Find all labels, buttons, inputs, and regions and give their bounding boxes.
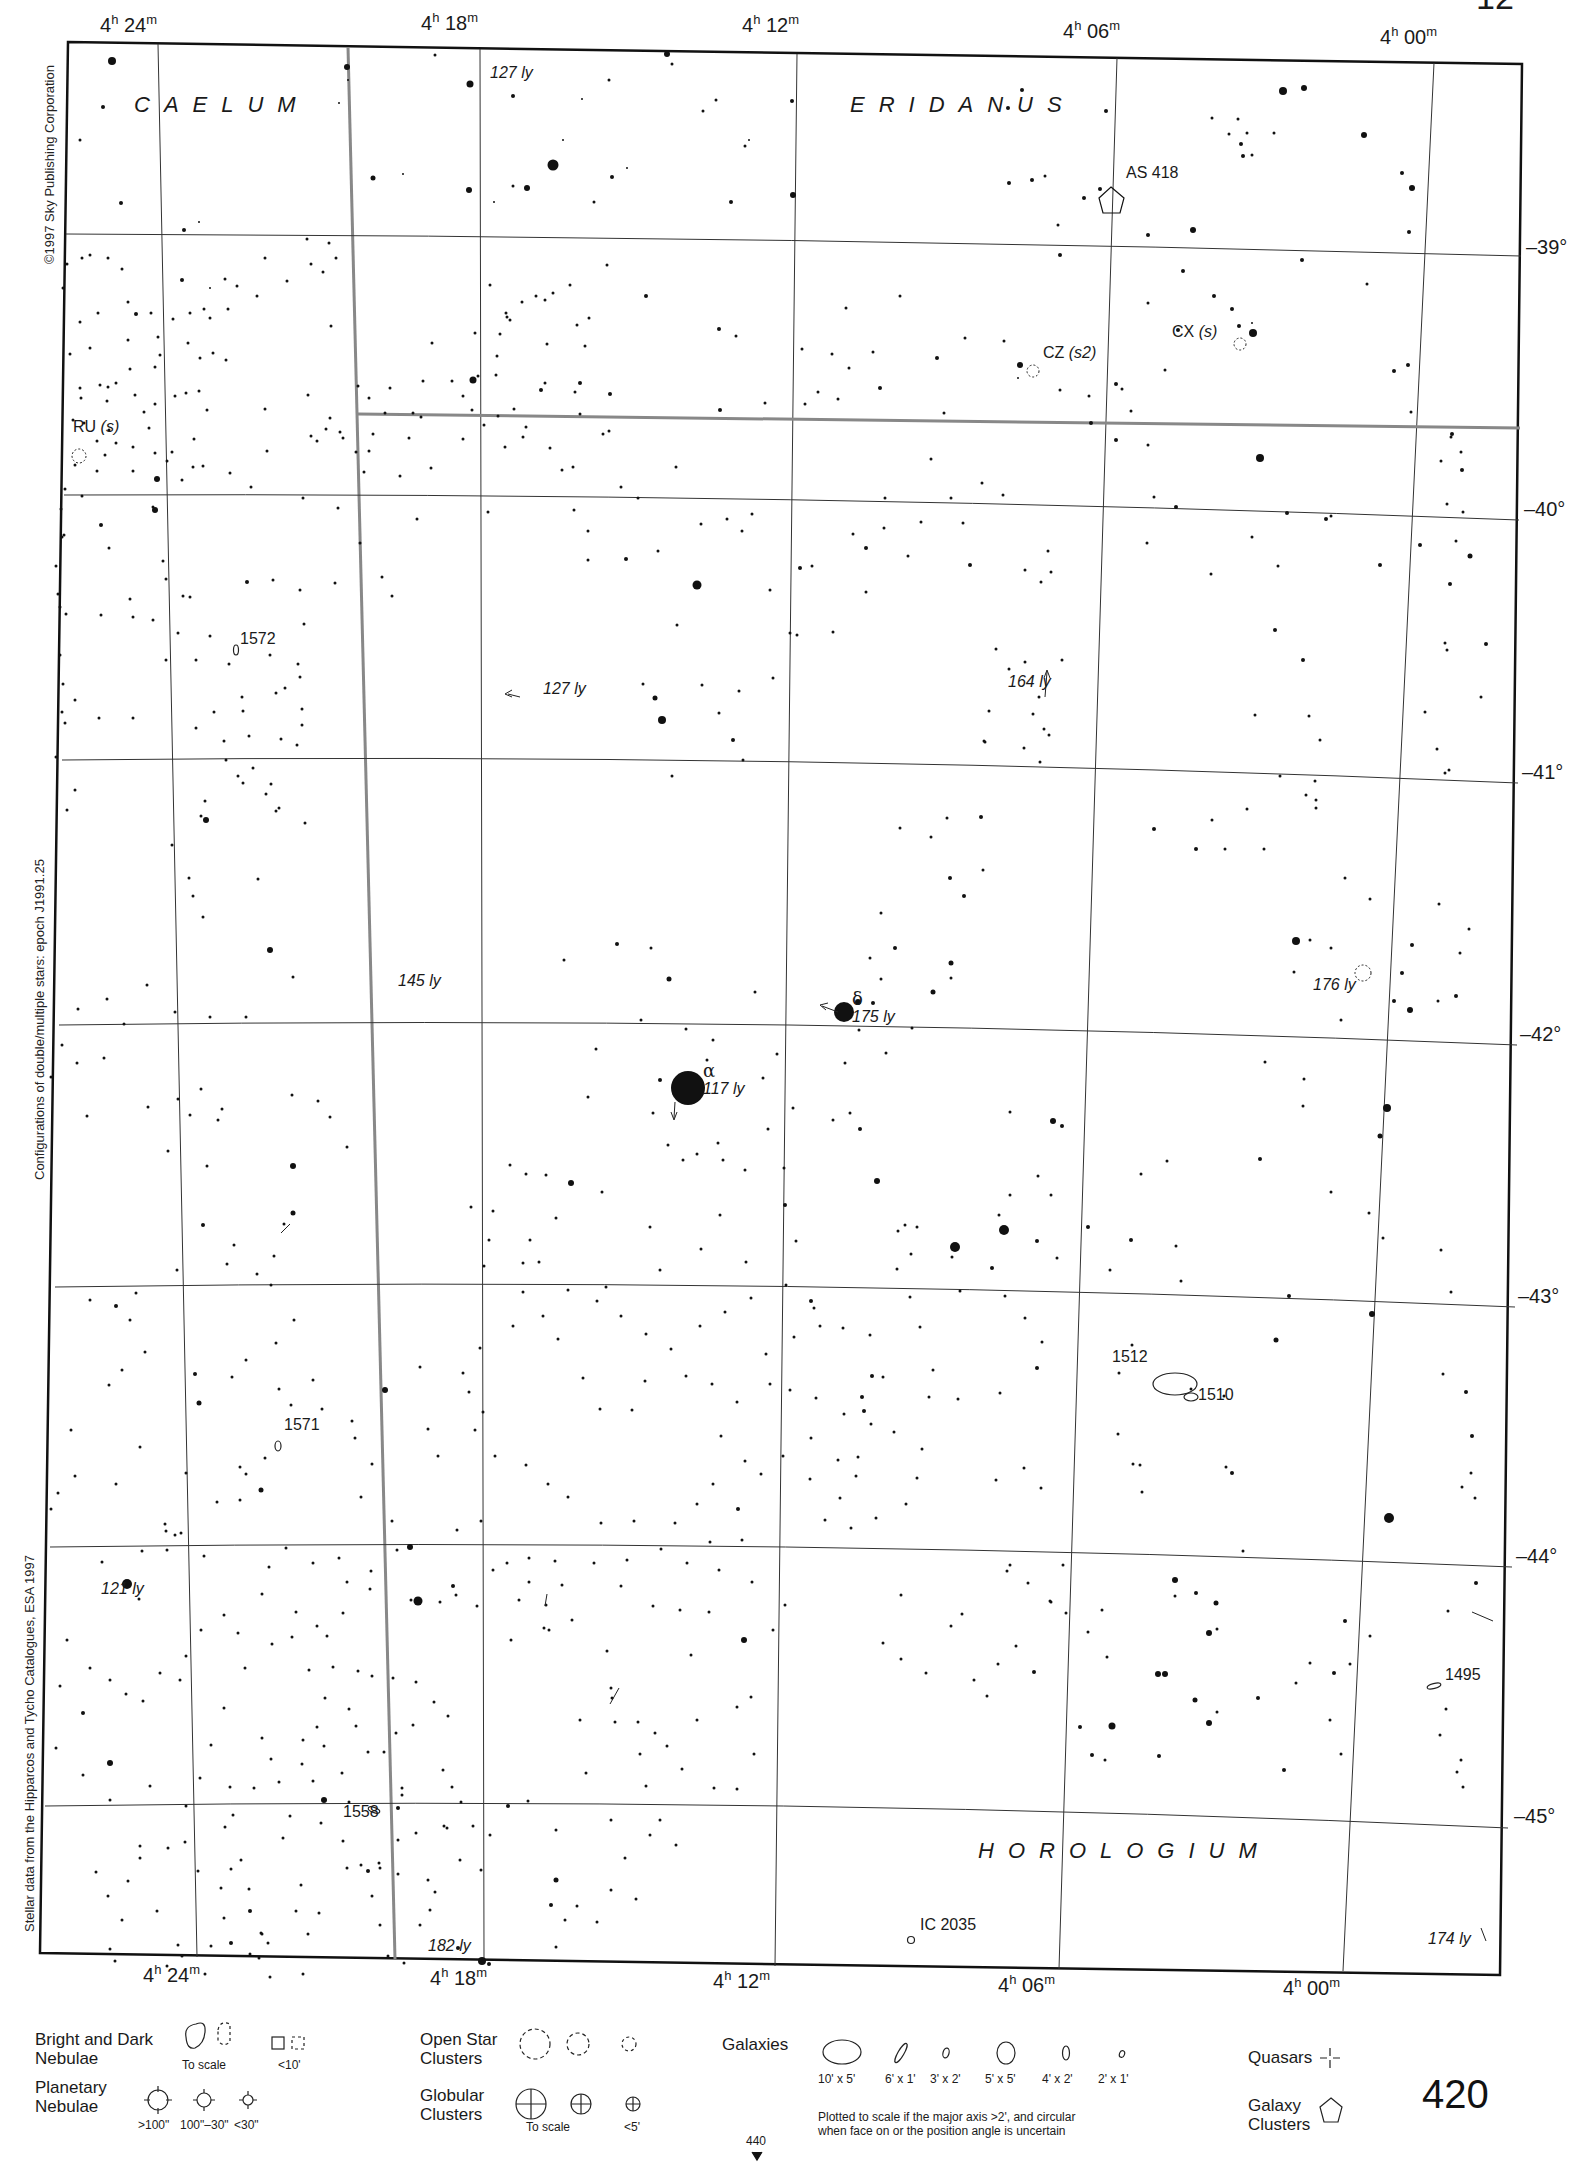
galaxy-1510-icon[interactable] xyxy=(1184,1393,1198,1401)
star xyxy=(979,815,983,819)
star xyxy=(302,1973,305,1976)
star xyxy=(65,613,68,616)
star xyxy=(123,1023,126,1026)
star xyxy=(772,1629,775,1632)
star xyxy=(865,591,868,594)
star xyxy=(1024,661,1027,664)
variable-star-type: (s) xyxy=(1199,323,1218,340)
star xyxy=(493,201,495,203)
star xyxy=(999,1392,1002,1395)
star xyxy=(790,192,796,198)
variable-star-name: CZ xyxy=(1043,344,1064,361)
page-number: 420 xyxy=(1422,2072,1489,2117)
star xyxy=(291,1094,294,1097)
star xyxy=(384,412,387,415)
galaxy-1571-icon[interactable] xyxy=(275,1441,281,1451)
next-page-ref[interactable]: 440 xyxy=(746,2134,766,2148)
star xyxy=(869,957,872,960)
star xyxy=(671,1071,705,1105)
star xyxy=(275,1342,278,1345)
star xyxy=(278,807,281,810)
star xyxy=(76,1062,79,1065)
star xyxy=(1462,511,1465,514)
object-label-galaxy[interactable]: 1572 xyxy=(240,630,276,648)
star xyxy=(181,1955,184,1958)
star xyxy=(784,1604,787,1607)
star xyxy=(522,1262,525,1265)
star xyxy=(119,201,123,205)
star xyxy=(645,1785,648,1788)
star xyxy=(229,1941,233,1945)
double-stars-note: Configurations of double/multiple stars:… xyxy=(32,859,47,1180)
galaxy-cluster-icon[interactable] xyxy=(1099,187,1124,213)
galaxy-1572-icon[interactable] xyxy=(234,645,239,655)
star xyxy=(750,1297,753,1300)
star xyxy=(499,333,502,336)
star xyxy=(1117,1433,1120,1436)
named-star-label[interactable]: α117 ly xyxy=(703,1062,745,1097)
star xyxy=(644,294,648,298)
star xyxy=(328,242,331,245)
star xyxy=(174,395,177,398)
object-label-galaxy[interactable]: 1495 xyxy=(1445,1666,1481,1684)
star xyxy=(874,1178,880,1184)
star xyxy=(82,1774,85,1777)
star xyxy=(789,1389,792,1392)
galaxy-ic2035-icon[interactable] xyxy=(908,1937,915,1944)
dec-gridlines xyxy=(45,234,1521,1828)
object-label-galaxy[interactable]: 1512 xyxy=(1112,1348,1148,1366)
object-label-galaxy[interactable]: 1571 xyxy=(284,1416,320,1434)
star xyxy=(652,1112,655,1115)
object-label-galaxy[interactable]: IC 2035 xyxy=(920,1916,976,1934)
object-label-galaxy-cluster[interactable]: AS 418 xyxy=(1126,164,1178,182)
star xyxy=(1109,1269,1112,1272)
star xyxy=(291,1636,294,1639)
star xyxy=(864,546,868,550)
star xyxy=(659,1269,662,1272)
variable-star-label[interactable]: CZ (s2) xyxy=(1043,344,1096,362)
star xyxy=(1006,1570,1009,1573)
ra-minutes: 06 xyxy=(1087,20,1109,42)
star xyxy=(197,1401,202,1406)
star xyxy=(1050,1118,1056,1124)
ra-minutes-unit: m xyxy=(759,1968,770,1983)
star xyxy=(1384,1513,1394,1523)
star xyxy=(301,1763,304,1766)
star xyxy=(744,1169,747,1172)
star xyxy=(1292,937,1300,945)
star xyxy=(538,1261,541,1264)
object-label-galaxy[interactable]: 1510 xyxy=(1198,1386,1234,1404)
star xyxy=(107,1760,113,1766)
star xyxy=(371,176,376,181)
star xyxy=(144,1351,147,1354)
star xyxy=(837,1459,840,1462)
ra-label-bottom-0: 4h 24m xyxy=(143,1962,200,1987)
chart-frame xyxy=(40,42,1522,1975)
star xyxy=(1155,1671,1161,1677)
star xyxy=(713,1787,716,1790)
star xyxy=(474,332,477,335)
named-star-label[interactable]: δ175 ly xyxy=(852,990,895,1025)
variable-star-label[interactable]: RU (s) xyxy=(73,418,119,436)
star xyxy=(995,1479,998,1482)
star xyxy=(712,1483,715,1486)
galaxy-1495-icon[interactable] xyxy=(1427,1682,1442,1690)
galaxy-1512-icon[interactable] xyxy=(1153,1373,1197,1395)
star xyxy=(399,475,402,478)
star xyxy=(785,1284,788,1287)
star xyxy=(422,380,425,383)
star xyxy=(106,400,109,403)
star xyxy=(815,1397,818,1400)
ra-minutes: 12 xyxy=(766,14,788,36)
star xyxy=(528,1581,531,1584)
star xyxy=(675,466,678,469)
star xyxy=(239,1499,242,1502)
star xyxy=(166,1549,169,1552)
variable-star-label[interactable]: CX (s) xyxy=(1172,323,1217,341)
star xyxy=(642,683,645,686)
star xyxy=(1474,1497,1477,1500)
star xyxy=(602,433,605,436)
object-label-galaxy[interactable]: 1558 xyxy=(343,1803,379,1821)
variable-star-name: RU xyxy=(73,418,96,435)
star xyxy=(100,614,103,617)
